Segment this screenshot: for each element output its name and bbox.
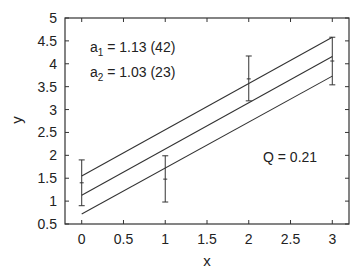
- y-tick-label: 2: [49, 147, 57, 163]
- annotation-q: Q = 0.21: [263, 149, 317, 165]
- x-tick-label: 2: [245, 231, 253, 247]
- fit-line: [82, 76, 333, 214]
- x-tick-label: 0: [78, 231, 86, 247]
- axis-ticks: 00.511.522.530.511.522.533.544.55: [38, 10, 349, 247]
- y-tick-label: 1: [49, 193, 57, 209]
- x-axis-label: x: [203, 252, 211, 269]
- x-tick-label: 3: [328, 231, 336, 247]
- x-tick-label: 0.5: [114, 231, 134, 247]
- annotation-a2: a2 = 1.03 (23): [90, 64, 175, 83]
- y-tick-label: 3.5: [38, 79, 58, 95]
- y-tick-label: 4: [49, 56, 57, 72]
- y-tick-label: 4.5: [38, 33, 58, 49]
- chart: 00.511.522.530.511.522.533.544.55 x y a1…: [0, 0, 363, 279]
- x-tick-label: 1.5: [197, 231, 217, 247]
- x-tick-label: 2.5: [281, 231, 301, 247]
- y-tick-label: 0.5: [38, 216, 58, 232]
- y-axis-label: y: [8, 116, 25, 124]
- x-tick-label: 1: [161, 231, 169, 247]
- y-tick-label: 1.5: [38, 170, 58, 186]
- annotation-a1: a1 = 1.13 (42): [90, 39, 175, 58]
- error-bars: [79, 37, 336, 205]
- y-tick-label: 3: [49, 102, 57, 118]
- y-tick-label: 5: [49, 10, 57, 26]
- y-tick-label: 2.5: [38, 124, 58, 140]
